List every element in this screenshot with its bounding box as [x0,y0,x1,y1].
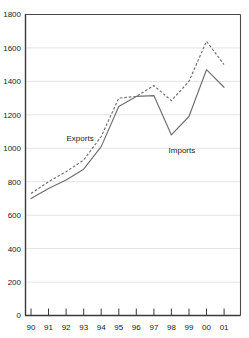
y-axis-tick-label: 600 [8,211,22,220]
x-axis-tick-label: 92 [62,323,71,332]
x-axis-tick-label: 90 [27,323,36,332]
x-axis-tick-label: 97 [149,323,158,332]
y-axis-tick-label: 1400 [3,77,21,86]
x-axis-tick-label: 95 [114,323,123,332]
y-axis-tick-label: 1000 [3,144,21,153]
y-axis-tick-label: 200 [8,278,22,287]
x-axis-tick-label: 00 [202,323,211,332]
chart-canvas: 020040060080010001200140016001800 909192… [0,0,249,338]
y-axis-tick-label: 0 [17,311,22,320]
series-annotation-label: Exports [67,134,94,143]
x-axis-tick-label: 91 [44,323,53,332]
y-axis-tick-label: 400 [8,245,22,254]
x-axis-tick-label: 94 [97,323,106,332]
series-annotation-label: Imports [169,146,196,155]
y-axis-tick-label: 1800 [3,10,21,19]
x-axis-tick-label: 93 [79,323,88,332]
y-axis-tick-label: 1200 [3,111,21,120]
line-chart-figure: 020040060080010001200140016001800 909192… [0,0,249,338]
y-axis-tick-label: 800 [8,178,22,187]
x-axis-tick-label: 99 [185,323,194,332]
x-axis-tick-label: 96 [132,323,141,332]
x-axis-tick-label: 01 [220,323,229,332]
x-axis-tick-label: 98 [167,323,176,332]
chart-background [0,0,249,338]
y-axis-tick-label: 1600 [3,44,21,53]
